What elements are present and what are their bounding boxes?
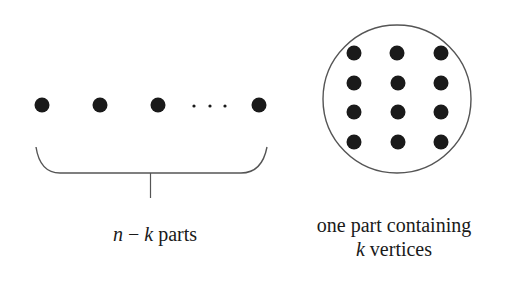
vertex: [347, 46, 362, 61]
circle-vertex-grid: [347, 46, 449, 150]
ellipsis-dot: [223, 104, 226, 107]
var-k: k: [356, 238, 365, 260]
vertex: [35, 98, 50, 113]
vertex: [391, 135, 406, 150]
one-part-line2: k vertices: [292, 237, 496, 261]
vertex: [434, 46, 449, 61]
grouping-brace: [36, 147, 267, 173]
var-k: k: [144, 223, 153, 245]
parts-text: parts: [153, 223, 197, 245]
vertex: [347, 105, 362, 120]
left-vertex-row: [35, 98, 267, 113]
vertex: [252, 98, 267, 113]
minus-sign: −: [123, 223, 144, 245]
one-part-label: one part containing k vertices: [292, 213, 496, 261]
vertices-text: vertices: [365, 238, 432, 260]
vertex: [347, 76, 362, 91]
ellipsis: [192, 104, 226, 107]
vertex: [434, 135, 449, 150]
vertex: [391, 76, 406, 91]
vertex: [151, 98, 166, 113]
vertex: [390, 46, 405, 61]
n-minus-k-parts-label: n − k parts: [113, 222, 197, 246]
vertex: [434, 76, 449, 91]
vertex: [434, 105, 449, 120]
ellipsis-dot: [208, 104, 211, 107]
one-part-line1: one part containing: [292, 213, 496, 237]
vertex: [347, 135, 362, 150]
var-n: n: [113, 223, 123, 245]
vertex: [93, 98, 108, 113]
vertex: [391, 105, 406, 120]
ellipsis-dot: [192, 104, 195, 107]
